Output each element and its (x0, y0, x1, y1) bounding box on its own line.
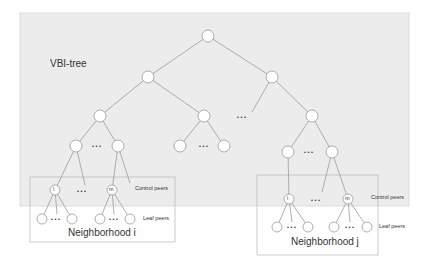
leaf-peer-node (303, 222, 313, 232)
leaf-peer-node (125, 214, 135, 224)
control-peer-node (50, 185, 60, 195)
control-peers-label-i: Control peers (135, 185, 168, 191)
ellipsis: • • • (77, 188, 86, 194)
leaf-peer-node (95, 214, 105, 224)
tree-node (112, 140, 124, 152)
leaf-peer-node (37, 214, 47, 224)
ellipsis: • • • (199, 143, 208, 149)
tree-node (218, 140, 230, 152)
leaf-peer-node (272, 222, 282, 232)
leaf-peers-label-i: Leaf peers (143, 215, 169, 221)
diagram-title: VBI-tree (50, 58, 87, 69)
ellipsis: • • • (92, 143, 101, 149)
tree-node (282, 146, 294, 158)
tree-node (174, 140, 186, 152)
ellipsis: • • • (237, 114, 246, 120)
control-peers-label-j: Control peers (371, 194, 404, 200)
node-label-m: m (345, 195, 350, 201)
ellipsis: • • • (304, 149, 313, 155)
neighborhood-i-label: Neighborhood i (68, 227, 136, 238)
ellipsis: • • • (287, 224, 296, 230)
control-peer-node (284, 194, 294, 204)
tree-node (142, 71, 154, 83)
tree-node (94, 110, 106, 122)
tree-node (70, 140, 82, 152)
node-label-l: l (287, 195, 288, 201)
ellipsis: • • • (345, 224, 354, 230)
tree-node (306, 110, 318, 122)
node-label-l: l (53, 186, 54, 192)
ellipsis: • • • (109, 216, 118, 222)
ellipsis: • • • (51, 216, 60, 222)
tree-node (266, 71, 278, 83)
leaf-peer-node (67, 214, 77, 224)
tree-node (198, 110, 210, 122)
tree-node (326, 146, 338, 158)
neighborhood-j-label: Neighborhood j (291, 236, 359, 247)
ellipsis: • • • (311, 197, 320, 203)
root-node (202, 30, 214, 42)
vbi-tree-diagram (0, 0, 429, 263)
leaf-peer-node (362, 222, 372, 232)
leaf-peers-label-j: Leaf peers (379, 223, 405, 229)
leaf-peer-node (329, 222, 339, 232)
node-label-m: m (109, 186, 114, 192)
